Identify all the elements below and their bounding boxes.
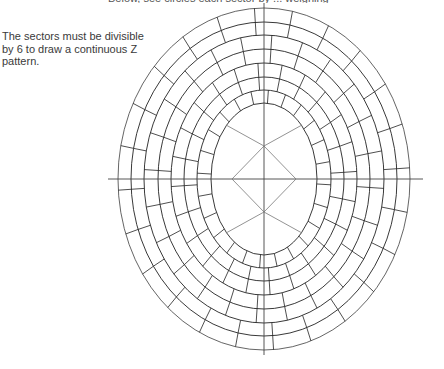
sector-divider bbox=[267, 90, 268, 103]
sector-divider bbox=[394, 210, 407, 213]
sector-divider bbox=[212, 83, 219, 95]
sector-divider bbox=[164, 75, 174, 84]
sector-divider bbox=[334, 93, 344, 102]
sector-divider bbox=[153, 259, 164, 266]
sector-divider bbox=[197, 228, 208, 235]
sector-divider bbox=[314, 203, 327, 207]
sector-divider bbox=[330, 196, 343, 199]
sector-divider bbox=[370, 188, 384, 189]
sector-divider bbox=[184, 185, 197, 186]
sector-divider bbox=[144, 170, 158, 171]
sector-divider bbox=[336, 224, 348, 230]
sector-divider bbox=[205, 308, 211, 320]
axes bbox=[108, 3, 423, 355]
sector-divider bbox=[298, 43, 303, 56]
sector-divider bbox=[238, 82, 242, 94]
sector-divider bbox=[186, 159, 199, 162]
sector-divider bbox=[145, 110, 157, 116]
sector-divider bbox=[303, 315, 307, 327]
sector-divider bbox=[260, 255, 261, 268]
sector-divider bbox=[375, 84, 386, 92]
sector-divider bbox=[338, 310, 345, 322]
sector-divider bbox=[217, 62, 223, 75]
sector-divider bbox=[118, 189, 131, 190]
sector-divider bbox=[325, 266, 334, 277]
sector-divider bbox=[299, 236, 308, 246]
sector-divider bbox=[347, 122, 359, 128]
sector-divider bbox=[331, 299, 338, 310]
sector-divider bbox=[277, 79, 280, 92]
sector-divider bbox=[340, 142, 352, 147]
sector-divider bbox=[316, 162, 330, 165]
sector-divider bbox=[185, 71, 194, 82]
sector-divider bbox=[344, 171, 357, 172]
sector-divider bbox=[293, 105, 301, 116]
sector-divider bbox=[343, 61, 352, 71]
sector-divider bbox=[150, 133, 163, 138]
sector-divider bbox=[268, 268, 269, 281]
sector-divider bbox=[197, 287, 205, 299]
sector-divider bbox=[299, 75, 305, 88]
sector-divider bbox=[397, 168, 410, 169]
sector-divider bbox=[364, 92, 375, 99]
elliptical-sector-diagram bbox=[0, 0, 444, 369]
sector-divider bbox=[272, 323, 273, 336]
sector-divider bbox=[221, 30, 225, 42]
sector-divider bbox=[316, 71, 323, 83]
sector-divider bbox=[220, 112, 229, 122]
sector-divider bbox=[204, 112, 214, 121]
sector-divider bbox=[171, 186, 184, 187]
sector-divider bbox=[169, 230, 181, 236]
sector-divider bbox=[199, 320, 205, 333]
sector-divider bbox=[208, 130, 220, 137]
sector-divider bbox=[317, 38, 323, 50]
sector-divider bbox=[201, 150, 214, 154]
sector-divider bbox=[286, 263, 290, 275]
sector-divider bbox=[352, 216, 364, 221]
sector-divider bbox=[354, 274, 364, 283]
sector-divider bbox=[203, 256, 212, 267]
sector-divider bbox=[259, 77, 260, 90]
sector-divider bbox=[301, 253, 308, 264]
sector-divider bbox=[308, 221, 320, 228]
sector-divider bbox=[164, 137, 176, 142]
sector-divider bbox=[164, 99, 176, 107]
sector-divider bbox=[364, 221, 377, 226]
sector-divider bbox=[158, 170, 171, 171]
sector-divider bbox=[355, 154, 368, 157]
sector-divider bbox=[287, 247, 293, 259]
sector-divider bbox=[273, 336, 274, 350]
sector-divider bbox=[378, 129, 390, 133]
sector-divider bbox=[243, 51, 246, 65]
sector-divider bbox=[324, 218, 336, 224]
sector-divider bbox=[194, 103, 204, 112]
sector-divider bbox=[214, 229, 225, 238]
sector-divider bbox=[156, 236, 169, 242]
sector-divider bbox=[236, 333, 239, 347]
sector-divider bbox=[131, 188, 144, 189]
sector-divider bbox=[282, 293, 285, 307]
sector-divider bbox=[294, 88, 300, 100]
sector-divider bbox=[384, 169, 397, 170]
diagonal-guide bbox=[264, 125, 301, 146]
sector-divider bbox=[194, 81, 203, 92]
sector-divider bbox=[227, 242, 235, 253]
sector-divider bbox=[287, 25, 290, 38]
sector-divider bbox=[246, 279, 249, 293]
sector-divider bbox=[390, 124, 402, 129]
sector-divider bbox=[256, 309, 257, 323]
sector-divider bbox=[251, 92, 254, 105]
sector-divider bbox=[255, 22, 256, 35]
sector-divider bbox=[285, 307, 288, 321]
sector-divider bbox=[168, 297, 177, 308]
sector-divider bbox=[143, 266, 154, 274]
sector-divider bbox=[294, 56, 298, 69]
sector-divider bbox=[188, 208, 200, 212]
sector-divider bbox=[184, 255, 194, 264]
sector-divider bbox=[312, 140, 325, 146]
sector-divider bbox=[331, 172, 344, 173]
sector-divider bbox=[241, 38, 244, 52]
sector-divider bbox=[138, 225, 150, 229]
sector-divider bbox=[372, 243, 384, 249]
sector-divider bbox=[211, 246, 220, 256]
